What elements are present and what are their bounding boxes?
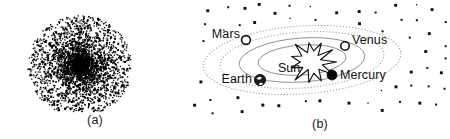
planet-label-mars: Mars	[212, 27, 240, 41]
planet-marker-earth[interactable]	[254, 74, 265, 85]
panel-a-caption: (a)	[0, 113, 190, 127]
two-panel-figure: (a) MarsVenusEarthMercurySun (b)	[0, 0, 450, 139]
planet-marker-mercury[interactable]	[327, 70, 337, 80]
panel-b-caption: (b)	[190, 117, 450, 131]
panel-b-solar-system: MarsVenusEarthMercurySun (b)	[190, 0, 450, 139]
sun-label: Sun	[278, 61, 300, 75]
planet-marker-venus[interactable]	[341, 42, 349, 50]
planet-label-venus: Venus	[352, 33, 387, 47]
planet-label-earth: Earth	[222, 72, 252, 86]
planet-label-mercury: Mercury	[340, 68, 386, 82]
planet-marker-mars[interactable]	[242, 36, 251, 45]
panel-a-point-cloud: (a)	[0, 0, 190, 139]
